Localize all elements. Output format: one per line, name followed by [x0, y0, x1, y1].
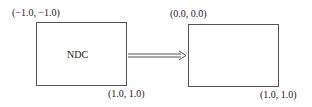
target-box: [188, 24, 279, 87]
right-bottom-right-coord: (1.0, 1.0): [260, 89, 297, 100]
right-top-left-coord: (0.0, 0.0): [170, 8, 207, 19]
